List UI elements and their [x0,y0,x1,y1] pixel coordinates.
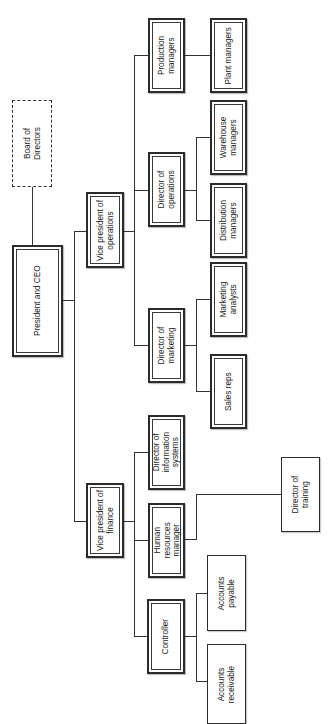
org-node-label: Director of marketing [157,327,176,365]
org-node-label: Director of operations [157,170,176,208]
connector-line [74,521,86,522]
connector-line [196,494,197,540]
org-node-hr-mgr: Human resources manager [148,503,185,578]
org-node-label: Human resources manager [152,523,181,559]
org-node-vp-ops: Vice president of operations [86,192,124,268]
connector-line [134,55,135,346]
connector-line [196,494,281,495]
org-node-label: Marketing analysts [219,282,238,318]
connector-line [185,636,196,637]
org-node-dir-train: Director of training [281,457,320,532]
org-node-controller: Controller [147,599,185,674]
org-node-dir-ops: Director of operations [148,152,185,227]
org-node-acct-rec: Accounts receivable [207,644,246,724]
org-node-dir-is: Director of information systems [148,415,185,490]
org-node-board: Board of Directors [12,100,52,187]
connector-line [134,636,147,637]
org-node-label: President and CEO [33,266,43,337]
org-node-ceo: President and CEO [12,245,63,357]
connector-line [134,452,148,453]
connector-line [196,299,197,392]
connector-line [124,521,134,522]
org-node-label: Sales reps [224,372,234,411]
org-node-label: Distribution managers [219,200,238,241]
org-node-distrib: Distribution managers [210,183,247,258]
connector-line [196,137,210,138]
connector-line [32,187,33,245]
org-node-label: Warehouse managers [219,117,238,159]
connector-line [134,345,148,346]
connector-line [196,593,197,682]
org-node-plant-mgr: Plant managers [210,18,247,93]
connector-line [185,345,196,346]
org-node-mkt-analyst: Marketing analysts [210,262,247,337]
connector-line [196,137,197,221]
org-node-label: Director of training [291,476,310,514]
connector-line [134,452,135,637]
org-node-label: Vice president of finance [96,490,115,551]
org-node-label: Vice president of operations [96,200,115,261]
org-node-prod-mgr: Production managers [148,18,185,93]
org-node-warehouse: Warehouse managers [210,100,247,175]
connector-line [196,299,210,300]
org-node-label: Director of information systems [152,432,181,473]
connector-line [185,55,210,56]
connector-line [134,540,148,541]
connector-line [196,593,207,594]
org-node-vp-fin: Vice president of finance [86,483,124,558]
connector-line [185,539,196,540]
connector-line [124,231,134,232]
connector-line [196,220,210,221]
connector-line [74,231,75,522]
org-node-label: Plant managers [224,27,234,84]
connector-line [196,391,210,392]
connector-line [74,231,86,232]
org-node-label: Controller [161,619,171,655]
org-node-label: Production managers [157,36,176,75]
connector-line [134,55,148,56]
org-node-label: Accounts payable [217,576,236,610]
org-node-label: Board of Directors [22,127,41,160]
org-node-acct-pay: Accounts payable [207,555,246,631]
connector-line [196,681,207,682]
org-node-dir-mkt: Director of marketing [148,308,185,383]
connector-line [63,300,74,301]
connector-line [134,190,148,191]
connector-line [185,190,196,191]
org-node-sales-reps: Sales reps [210,354,247,429]
org-node-label: Accounts receivable [217,665,236,702]
